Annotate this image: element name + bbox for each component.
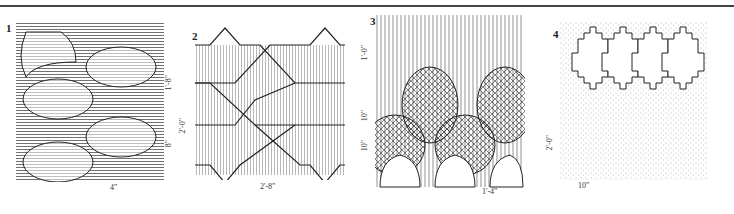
dim-3-horizontal: 1'-4" (482, 187, 497, 196)
dim-1-vertical-3: 2'-0" (178, 118, 187, 133)
panel-1: 1 1'-8" 8" 2'-0" 4" (0, 0, 190, 214)
pattern-4-drawing (560, 22, 710, 182)
dim-1-vertical-1: 1'-8" (164, 75, 173, 90)
pattern-2-drawing (195, 25, 355, 180)
panel-4-number: 4 (553, 28, 559, 40)
dim-4-vertical: 2'-0" (545, 135, 554, 150)
dim-3-vertical-1: 1'-0" (360, 45, 369, 60)
pattern-1-drawing (16, 22, 166, 182)
dim-1-vertical-2: 8" (164, 140, 173, 147)
dim-1-horizontal: 4" (110, 183, 117, 192)
dim-4-horizontal: 10" (578, 181, 589, 190)
dim-3-vertical-2: 10" (360, 110, 369, 121)
dim-2-horizontal: 2'-8" (260, 182, 275, 191)
panel-3: 3 1'-0" 10" 10" 1'-4" (370, 0, 550, 214)
pattern-3-drawing (375, 15, 525, 190)
panel-2: 2 2'-8" (190, 0, 370, 214)
panel-4: 4 2'-0" 10" (550, 0, 734, 214)
dim-3-vertical-3: 10" (360, 140, 369, 151)
panel-1-number: 1 (6, 22, 12, 34)
